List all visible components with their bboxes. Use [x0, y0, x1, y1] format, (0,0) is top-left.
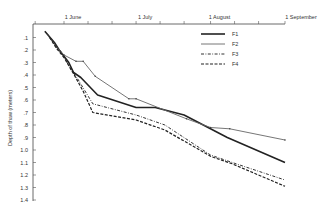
- y-tick-label: 1.2: [20, 172, 28, 178]
- data-point-marker: [94, 75, 96, 77]
- y-tick-label: .4: [23, 72, 28, 78]
- y-tick-label: .2: [23, 47, 28, 53]
- data-point-marker: [63, 54, 65, 56]
- data-point-marker: [284, 139, 286, 141]
- series-lines: [45, 31, 286, 186]
- y-tick-label: .1: [23, 35, 28, 41]
- y-tick-label: .9: [23, 135, 28, 141]
- chart-svg: 1 June1 July1 August1 September.1.2.3.4.…: [0, 0, 331, 221]
- y-tick-label: 1.1: [20, 160, 28, 166]
- thaw-depth-chart: 1 June1 July1 August1 September.1.2.3.4.…: [0, 0, 331, 221]
- data-point-marker: [229, 128, 231, 130]
- legend-label-f4: F4: [232, 61, 238, 67]
- y-tick-label: .6: [23, 97, 28, 103]
- y-tick-label: 1.3: [20, 185, 28, 191]
- y-tick-label: 1.4: [20, 197, 28, 203]
- data-point-marker: [210, 127, 212, 129]
- y-tick-label: .5: [23, 85, 28, 91]
- data-point-marker: [128, 98, 130, 100]
- y-tick-label: .8: [23, 122, 28, 128]
- legend-label-f1: F1: [232, 31, 238, 37]
- legend-label-f3: F3: [232, 51, 238, 57]
- x-tick-label: 1 September: [285, 14, 317, 20]
- x-tick-label: 1 June: [65, 14, 82, 20]
- y-axis-label: Depth of thaw (meters): [7, 90, 13, 146]
- y-tick-label: .3: [23, 60, 28, 66]
- series-line-f4: [50, 38, 285, 187]
- data-point-marker: [75, 60, 77, 62]
- y-tick-label: 1.0: [20, 147, 28, 153]
- data-point-marker: [82, 60, 84, 62]
- x-tick-label: 1 July: [138, 14, 153, 20]
- data-point-marker: [135, 98, 137, 100]
- axes: 1 June1 July1 August1 September.1.2.3.4.…: [20, 14, 317, 203]
- legend: F1F2F3F4: [201, 31, 238, 67]
- x-tick-label: 1 August: [209, 14, 231, 20]
- series-line-f2: [50, 38, 285, 141]
- y-tick-label: .7: [23, 110, 28, 116]
- series-line-f3: [47, 34, 285, 180]
- series-line-f1: [45, 31, 285, 162]
- data-point-marker: [186, 118, 188, 120]
- legend-label-f2: F2: [232, 41, 238, 47]
